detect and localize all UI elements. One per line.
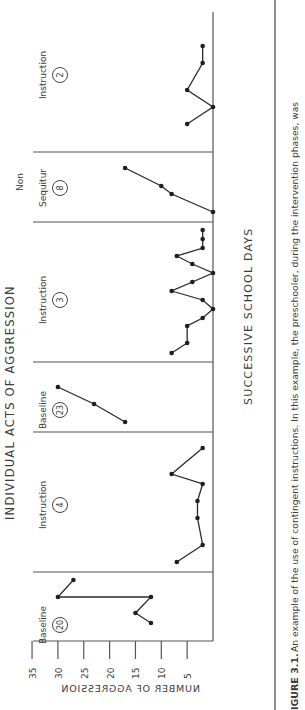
condition-number: 20 <box>56 620 65 630</box>
y-tick-label: 25 <box>80 668 90 679</box>
condition-number: 2 <box>56 72 65 77</box>
data-point <box>200 61 205 66</box>
phase-label: Instruction <box>38 276 48 324</box>
condition-number: 23 <box>56 405 65 415</box>
x-axis-label: SUCCESSIVE SCHOOL DAYS <box>242 228 255 405</box>
data-point <box>185 324 190 329</box>
phase-series-line <box>125 168 213 212</box>
phase-label-group: NonSequitur8 <box>15 169 68 207</box>
data-point <box>71 578 76 583</box>
phase-series-line <box>172 230 213 353</box>
phase-label: Non <box>15 173 25 191</box>
aggression-chart: INDIVIDUAL ACTS OF AGGRESSION 3530252015… <box>0 0 305 710</box>
data-point <box>200 246 205 251</box>
phase-label: Baseline <box>38 605 48 644</box>
phase-label-group: Baseline20 <box>38 605 68 644</box>
data-point <box>211 210 216 215</box>
data-point <box>200 446 205 451</box>
phase-series-line <box>172 448 203 562</box>
phase-label: Instruction <box>38 51 48 99</box>
data-point <box>92 402 97 407</box>
data-point <box>200 543 205 548</box>
phase-label-group: Instruction2 <box>38 51 68 99</box>
data-point <box>169 472 174 477</box>
data-point <box>195 499 200 504</box>
y-tick-label: 10 <box>157 667 167 679</box>
data-point <box>56 385 61 390</box>
data-point <box>185 88 190 93</box>
data-point <box>169 289 174 294</box>
y-tick-label: 5 <box>183 673 193 679</box>
data-point <box>190 280 195 285</box>
phase-label-group: Instruction3 <box>38 276 68 324</box>
figure-page: INDIVIDUAL ACTS OF AGGRESSION 3530252015… <box>0 0 305 710</box>
data-series <box>56 44 216 626</box>
chart-title: INDIVIDUAL ACTS OF AGGRESSION <box>3 285 17 520</box>
data-point <box>211 105 216 110</box>
data-point <box>211 271 216 276</box>
condition-number: 8 <box>56 185 65 190</box>
data-point <box>133 611 138 616</box>
phase-label-group: Instruction4 <box>38 481 68 529</box>
y-axis-label: NUMBER OF AGGRESSION <box>61 683 200 694</box>
phase-series-line <box>58 387 125 422</box>
y-axis-ticks: 3530252015105 <box>28 641 193 679</box>
phase-series-line <box>187 46 213 124</box>
data-point <box>149 621 154 626</box>
y-tick-label: 35 <box>28 668 38 679</box>
data-point <box>200 298 205 303</box>
data-point <box>190 262 195 267</box>
y-tick-label: 20 <box>106 667 116 679</box>
data-point <box>169 192 174 197</box>
figure-caption-label: IGURE 3.1. <box>289 653 300 710</box>
phase-label: Baseline <box>38 390 48 429</box>
data-point <box>200 44 205 49</box>
data-point <box>195 516 200 521</box>
phase-labels: Baseline20Instruction4Baseline23Instruct… <box>15 51 68 644</box>
data-point <box>169 351 174 356</box>
phase-series-line <box>58 580 151 623</box>
y-tick-label: 30 <box>54 667 64 679</box>
y-tick-label: 15 <box>131 668 141 679</box>
data-point <box>185 341 190 346</box>
data-point <box>123 166 128 171</box>
phase-label: Sequitur <box>38 169 48 207</box>
data-point <box>200 482 205 487</box>
phase-label-group: Baseline23 <box>38 390 68 429</box>
data-point <box>185 122 190 127</box>
phase-label: Instruction <box>38 481 48 529</box>
condition-number: 4 <box>56 502 65 507</box>
condition-number: 3 <box>56 297 65 302</box>
data-point <box>159 184 164 189</box>
figure-caption-text: An example of the use of contingent inst… <box>289 102 300 652</box>
data-point <box>56 595 61 600</box>
data-point <box>175 254 180 259</box>
data-point <box>123 420 128 425</box>
data-point <box>200 237 205 242</box>
data-point <box>200 228 205 233</box>
data-point <box>175 560 180 565</box>
data-point <box>211 307 216 312</box>
phase-dividers <box>33 152 213 572</box>
data-point <box>149 595 154 600</box>
data-point <box>200 316 205 321</box>
